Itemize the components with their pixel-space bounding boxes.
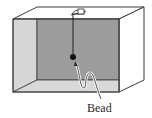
- box-left-wall: [13, 19, 37, 92]
- box-bead-diagram: Bead: [0, 0, 152, 118]
- bead: [70, 54, 76, 60]
- bead-label: Bead: [87, 101, 112, 115]
- box-right-face: [119, 7, 144, 92]
